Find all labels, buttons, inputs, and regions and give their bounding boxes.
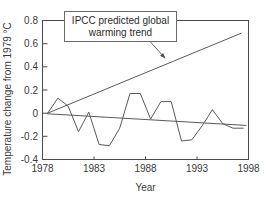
x-axis-tick-labels: 1978 1983 1988 1993 1998 [31, 163, 260, 174]
x-tick-label: 1998 [237, 163, 260, 174]
y-tick-label: 0.8 [24, 15, 38, 26]
x-tick-label: 1983 [83, 163, 106, 174]
y-tick-label: -0.2 [21, 131, 39, 142]
x-tick-label: 1988 [134, 163, 157, 174]
ipcc-callout-annotation: IPCC predicted global warming trend [65, 12, 177, 59]
y-axis-title: Temperature change from 1979 °C [2, 22, 13, 176]
chart-screenshot: 0.8 0.6 0.4 0.2 0 -0.2 -0.4 1978 1983 1 [0, 0, 271, 197]
x-tick-label: 1978 [31, 163, 54, 174]
annotation-text-line2: warming trend [88, 27, 152, 38]
y-axis-tick-labels: 0.8 0.6 0.4 0.2 0 -0.2 -0.4 [21, 15, 39, 165]
y-axis-ticks [43, 21, 48, 160]
annotation-text-line1: IPCC predicted global [72, 15, 169, 26]
x-tick-label: 1993 [186, 163, 209, 174]
y-tick-label: 0.2 [24, 85, 38, 96]
x-axis-title: Year [135, 182, 156, 193]
y-tick-label: 0.4 [24, 61, 38, 72]
chart-canvas: 0.8 0.6 0.4 0.2 0 -0.2 -0.4 1978 1983 1 [0, 0, 271, 197]
y-tick-label: 0.6 [24, 38, 38, 49]
y-tick-label: 0 [32, 108, 38, 119]
temperature-trend-chart: 0.8 0.6 0.4 0.2 0 -0.2 -0.4 1978 1983 1 [0, 0, 271, 197]
x-axis-ticks [43, 155, 249, 160]
ipcc-predicted-trend-line [48, 33, 241, 113]
